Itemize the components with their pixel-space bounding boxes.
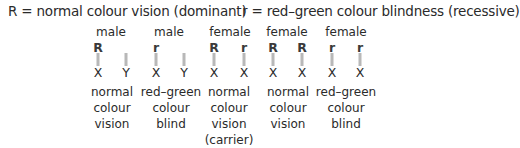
description-line: (carrier) — [205, 132, 254, 148]
description-line: normal — [205, 84, 254, 100]
description-line: blind — [316, 116, 376, 132]
chromosome-label: X — [269, 65, 278, 80]
description-line: vision — [267, 116, 309, 132]
chromosome-label: Y — [122, 65, 130, 80]
phenotype-description: normal colour vision — [91, 84, 133, 132]
phenotype-description: red–green colour blind — [141, 84, 201, 132]
description-line: red–green — [316, 84, 376, 100]
description-line: colour — [205, 100, 254, 116]
sex-label: male — [154, 25, 184, 39]
chromosome-label: X — [328, 65, 337, 80]
description-line: vision — [205, 116, 254, 132]
phenotype-description: red–green colour blind — [316, 84, 376, 132]
legend-recessive: r = red–green colour blindness (recessiv… — [242, 3, 520, 19]
sex-label: male — [96, 25, 126, 39]
sex-label: female — [325, 25, 366, 39]
description-line: colour — [141, 100, 201, 116]
description-line: vision — [91, 116, 133, 132]
chromosome-label: X — [298, 65, 307, 80]
chromosome-label: X — [94, 65, 103, 80]
chromosome-label: X — [240, 65, 249, 80]
chromosome-label: X — [356, 65, 365, 80]
legend-dominant: R = normal colour vision (dominant) — [8, 3, 247, 19]
description-line: colour — [316, 100, 376, 116]
description-line: normal — [91, 84, 133, 100]
chromosome-label: X — [210, 65, 219, 80]
description-line: red–green — [141, 84, 201, 100]
sex-label: female — [209, 25, 250, 39]
phenotype-description: normal colour vision — [267, 84, 309, 132]
description-line: colour — [91, 100, 133, 116]
chromosome-label: Y — [180, 65, 188, 80]
phenotype-description: normal colour vision (carrier) — [205, 84, 254, 148]
sex-label: female — [266, 25, 307, 39]
chromosome-label: X — [152, 65, 161, 80]
description-line: normal — [267, 84, 309, 100]
description-line: blind — [141, 116, 201, 132]
description-line: colour — [267, 100, 309, 116]
